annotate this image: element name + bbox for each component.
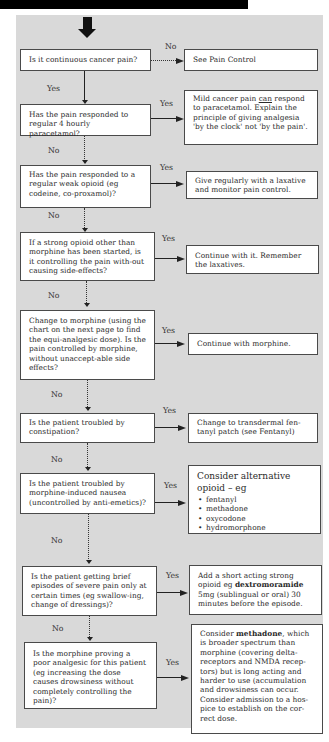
arrow-right-icon	[176, 181, 184, 187]
connector	[155, 427, 179, 428]
connector	[155, 343, 178, 344]
outcome-fentanyl-patch: Change to transdermal fen-tanyl patch (s…	[188, 413, 318, 443]
no-label: No	[51, 455, 63, 464]
yes-label: Yes	[164, 481, 177, 490]
outcome-weak-opioid: Give regularly with a laxative and monit…	[186, 171, 318, 199]
arrow-right-icon	[181, 675, 189, 681]
arrow-down-icon	[84, 303, 90, 307]
arrow-right-icon	[178, 500, 186, 506]
arrow-right-icon	[176, 116, 184, 122]
yes-label: Yes	[160, 163, 173, 172]
connector	[151, 60, 176, 61]
outcome-alternative-opioid: Consider alternative opioid – eg fentany…	[188, 465, 321, 534]
connector	[87, 443, 88, 469]
arrow-down-icon	[87, 637, 93, 641]
no-label: No	[48, 146, 60, 155]
yes-label: Yes	[166, 571, 179, 580]
yes-label: Yes	[166, 658, 179, 667]
connector	[84, 71, 85, 101]
connector	[157, 592, 181, 593]
yes-label: Yes	[163, 406, 176, 415]
no-label: No	[51, 390, 63, 399]
connector	[89, 616, 90, 639]
yes-label: Yes	[162, 326, 175, 335]
arrow-down-icon	[85, 407, 91, 411]
connector	[86, 281, 87, 305]
list-item: hydromorphone	[206, 523, 312, 532]
outcome-paracetamol: Mild cancer pain can respond to paraceta…	[184, 90, 318, 145]
arrow-right-icon	[177, 341, 185, 347]
outcome-see-pain-control: See Pain Control	[184, 49, 318, 71]
question-strong-opioid: If a strong opioid other than morphine h…	[20, 232, 155, 281]
no-label: No	[165, 42, 177, 51]
yes-label: Yes	[160, 99, 173, 108]
question-continuous-pain: Is it continuous cancer pain?	[20, 49, 151, 71]
arrow-down-icon	[86, 560, 92, 564]
start-arrow-icon	[78, 17, 96, 38]
no-label: No	[51, 536, 63, 545]
arrow-down-icon	[82, 160, 88, 164]
question-poor-analgesic: Is the morphine proving a poor analgesic…	[24, 642, 157, 709]
no-label: No	[48, 211, 60, 220]
connector	[84, 208, 85, 230]
outcome-methadone: Consider methadone, which is broader spe…	[191, 624, 323, 734]
list-item: oxycodone	[206, 514, 312, 523]
question-paracetamol: Has the pain responded to regular 4 hour…	[20, 104, 151, 136]
arrow-down-icon	[85, 467, 91, 471]
connector	[84, 136, 85, 161]
connector	[151, 183, 177, 184]
arrow-right-icon	[180, 590, 188, 596]
connector	[157, 677, 182, 678]
no-label: No	[48, 291, 60, 300]
connector	[151, 118, 177, 119]
connector	[155, 502, 179, 503]
alternative-opioid-list: fentanyl methadone oxycodone hydromorpho…	[197, 495, 312, 533]
outcome-strong-opioid: Continue with it. Remember the laxatives…	[186, 245, 319, 274]
question-weak-opioid: Has the pain responded to a regular weak…	[20, 165, 151, 208]
connector	[155, 258, 178, 259]
question-brief-episodes: Is the patient getting brief episodes of…	[22, 566, 157, 616]
question-constipation: Is the patient troubled by constipation?	[20, 413, 155, 443]
arrow-right-icon	[176, 58, 184, 64]
arrow-right-icon	[177, 256, 185, 262]
connector	[87, 380, 88, 409]
list-item: fentanyl	[206, 495, 312, 504]
outcome-continue-morphine: Continue with morphine.	[188, 333, 318, 355]
question-nausea: Is the patient troubled by morphine-indu…	[20, 473, 155, 514]
connector	[88, 514, 89, 561]
no-label: No	[52, 624, 64, 633]
yes-label: Yes	[162, 234, 175, 243]
yes-label: Yes	[47, 84, 60, 93]
arrow-right-icon	[178, 425, 186, 431]
question-change-morphine: Change to morphine (using the chart on t…	[20, 310, 155, 380]
header-bar	[0, 0, 248, 9]
outcome-dextromoramide: Add a short acting strong opioid eg dext…	[189, 565, 322, 615]
list-item: methadone	[206, 504, 312, 513]
